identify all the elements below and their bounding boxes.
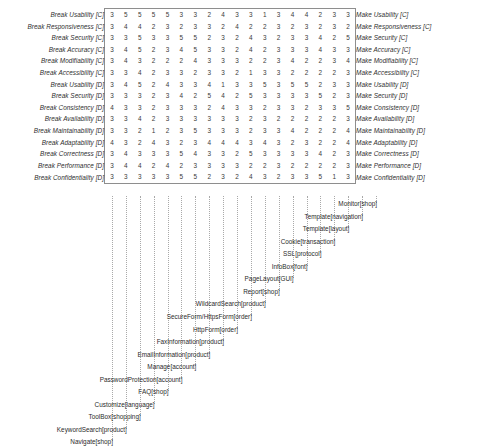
- matrix-cell: 4: [299, 9, 313, 21]
- matrix-cell: 5: [174, 148, 188, 160]
- matrix-cell: 3: [230, 55, 244, 67]
- matrix-cell: 3: [133, 171, 147, 183]
- matrix-cell: 3: [341, 44, 355, 56]
- matrix-cell: 4: [341, 137, 355, 149]
- matrix-cell: 4: [105, 137, 119, 149]
- matrix-cell: 3: [119, 67, 133, 79]
- row-label-right: Make Adaptability [D]: [356, 137, 457, 149]
- matrix-cell: 3: [161, 32, 175, 44]
- matrix-cell: 4: [341, 125, 355, 137]
- row-label-left: Break Confidentiality [D]: [0, 171, 105, 183]
- matrix-cell: 3: [119, 171, 133, 183]
- matrix-cell: 3: [161, 21, 175, 33]
- matrix-cell: 3: [286, 90, 300, 102]
- column-label: Navigate[shop]: [0, 438, 113, 446]
- matrix-cell: 3: [341, 67, 355, 79]
- matrix-cell: 3: [272, 160, 286, 172]
- column-label: HttpForm[order]: [0, 326, 238, 334]
- matrix-cell: 2: [188, 90, 202, 102]
- matrix-cell: 2: [327, 160, 341, 172]
- matrix-cell: 3: [188, 79, 202, 91]
- matrix-cell: 2: [327, 125, 341, 137]
- matrix-cell: 5: [133, 79, 147, 91]
- column-label: KeywordSearch[product]: [0, 426, 127, 434]
- matrix-cell: 3: [188, 160, 202, 172]
- matrix-cell: 3: [105, 125, 119, 137]
- matrix-cell: 2: [313, 160, 327, 172]
- row-label-left: Break Modifiability [C]: [0, 55, 105, 67]
- matrix-cell: 3: [188, 113, 202, 125]
- matrix-cell: 3: [244, 102, 258, 114]
- matrix-cell: 3: [216, 160, 230, 172]
- matrix-cell: 1: [258, 9, 272, 21]
- row-label-left: Break Responsiveness [C]: [0, 21, 105, 33]
- matrix-cell: 2: [230, 32, 244, 44]
- matrix-cell: 2: [174, 137, 188, 149]
- matrix-cell: 3: [216, 125, 230, 137]
- matrix-cell: 4: [119, 44, 133, 56]
- matrix-cell: 5: [147, 9, 161, 21]
- column-label: Manage[account]: [0, 363, 196, 371]
- matrix-cell: 4: [161, 79, 175, 91]
- matrix-cell: 3: [188, 137, 202, 149]
- table-row: Break Confidentiality [D]333335523243233…: [0, 171, 456, 183]
- matrix-cell: 2: [272, 113, 286, 125]
- matrix-cell: 3: [147, 148, 161, 160]
- matrix-cell: 4: [286, 9, 300, 21]
- matrix-cell: 2: [202, 9, 216, 21]
- matrix-cell: 3: [272, 44, 286, 56]
- matrix-cell: 2: [327, 90, 341, 102]
- column-label: Customize[language]: [0, 401, 155, 409]
- column-label: EmailInformation[product]: [0, 351, 210, 359]
- matrix-cell: 3: [105, 9, 119, 21]
- matrix-cell: 3: [119, 90, 133, 102]
- matrix-cell: 3: [327, 55, 341, 67]
- row-label-left: Break Correctness [D]: [0, 148, 105, 160]
- column-label: FAQ[shop]: [0, 388, 169, 396]
- matrix-cell: 3: [230, 79, 244, 91]
- matrix-cell: 3: [133, 90, 147, 102]
- matrix-cell: 5: [299, 79, 313, 91]
- column-label: SecureForm/HttpsForm[order]: [0, 313, 252, 321]
- matrix-cell: 3: [258, 113, 272, 125]
- matrix-cell: 3: [313, 102, 327, 114]
- matrix-cell: 3: [133, 55, 147, 67]
- matrix-cell: 5: [188, 125, 202, 137]
- matrix-cell: 2: [313, 21, 327, 33]
- matrix-cell: 3: [105, 90, 119, 102]
- table-row: Break Responsiveness [C]3442323324223232…: [0, 21, 456, 33]
- matrix-cell: 3: [286, 171, 300, 183]
- matrix-cell: 3: [272, 21, 286, 33]
- matrix-cell: 3: [202, 148, 216, 160]
- matrix-cell: 2: [327, 113, 341, 125]
- matrix-cell: 2: [286, 67, 300, 79]
- matrix-cell: 2: [327, 67, 341, 79]
- matrix-cell: 4: [202, 79, 216, 91]
- matrix-cell: 5: [244, 90, 258, 102]
- matrix-cell: 2: [188, 67, 202, 79]
- column-label: Report[shop]: [0, 288, 280, 296]
- matrix-cell: 3: [188, 21, 202, 33]
- row-label-right: Make Maintainability [D]: [356, 125, 457, 137]
- matrix-cell: 3: [272, 55, 286, 67]
- matrix-cell: 3: [216, 113, 230, 125]
- matrix-cell: 4: [119, 160, 133, 172]
- matrix-cell: 3: [105, 55, 119, 67]
- row-label-left: Break Availability [D]: [0, 113, 105, 125]
- matrix-cell: 3: [147, 171, 161, 183]
- row-label-right: Make Consistency [D]: [356, 102, 457, 114]
- matrix-cell: 3: [161, 90, 175, 102]
- matrix-cell: 2: [161, 125, 175, 137]
- matrix-cell: 3: [161, 44, 175, 56]
- matrix-cell: 3: [119, 32, 133, 44]
- matrix-cell: 3: [272, 148, 286, 160]
- matrix-cell: 5: [188, 171, 202, 183]
- matrix-cell: 2: [174, 55, 188, 67]
- row-label-right: Make Accuracy [C]: [356, 44, 457, 56]
- matrix-cell: 2: [161, 55, 175, 67]
- matrix-cell: 2: [216, 21, 230, 33]
- matrix-cell: 3: [258, 171, 272, 183]
- matrix-cell: 2: [341, 21, 355, 33]
- matrix-cell: 2: [299, 125, 313, 137]
